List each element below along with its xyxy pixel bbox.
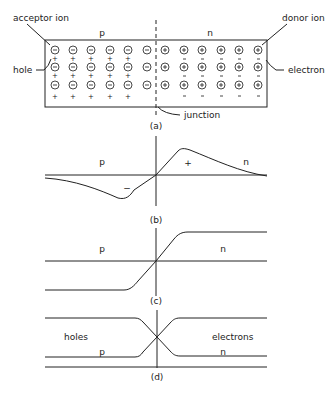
acceptor-ion [143, 81, 151, 89]
p-side-charges: + + + + + + + + + + + + + [51, 46, 151, 101]
acceptor-ion [143, 63, 151, 71]
hole: + [70, 72, 76, 80]
d-electrons-label: electrons [212, 332, 254, 342]
caption-d: (d) [151, 372, 164, 382]
hole: + [125, 93, 131, 101]
acceptor-ion [51, 81, 59, 89]
acceptor-ion [106, 63, 114, 71]
electron-leader [266, 60, 284, 70]
d-region-n: n [220, 347, 226, 357]
donor-ion [180, 46, 188, 54]
donor-ion [180, 81, 188, 89]
hole: + [70, 55, 76, 63]
donor-ion [235, 63, 243, 71]
n-side-charges [161, 46, 262, 96]
hole-leader [36, 59, 51, 70]
donor-ion [161, 81, 169, 89]
b-region-n: n [243, 157, 249, 167]
region-n-label: n [207, 28, 213, 38]
acceptor-ion [51, 63, 59, 71]
acceptor-ion [69, 63, 77, 71]
panel-c: p n (c) [45, 228, 267, 306]
acceptor-ion [87, 63, 95, 71]
hole: + [125, 55, 131, 63]
panel-d: holes electrons p n (d) [45, 310, 267, 382]
donor-ion [161, 46, 169, 54]
acceptor-ion [51, 46, 59, 54]
panel-a: p n acceptor ion donor ion hole electron… [13, 13, 325, 131]
hole: + [107, 93, 113, 101]
c-region-p: p [99, 244, 105, 254]
donor-ion-leader [262, 24, 287, 45]
d-region-p: p [99, 347, 105, 357]
hole: + [70, 93, 76, 101]
hole: + [125, 72, 131, 80]
acceptor-ion [124, 46, 132, 54]
junction-leader [158, 107, 180, 115]
donor-ion [235, 46, 243, 54]
hole: + [107, 72, 113, 80]
pn-junction-diagram: p n acceptor ion donor ion hole electron… [0, 0, 334, 395]
hole: + [107, 55, 113, 63]
donor-ion [198, 63, 206, 71]
donor-ion [198, 81, 206, 89]
caption-c: (c) [150, 296, 162, 306]
hole: + [52, 93, 58, 101]
donor-ion [217, 63, 225, 71]
donor-ion [217, 81, 225, 89]
hole-label: hole [13, 65, 33, 75]
c-region-n: n [220, 244, 226, 254]
d-holes-label: holes [64, 332, 88, 342]
acceptor-ion [87, 81, 95, 89]
acceptor-ion [143, 46, 151, 54]
b-region-p: p [99, 157, 105, 167]
acceptor-ion [106, 81, 114, 89]
acceptor-ion [124, 81, 132, 89]
donor-ion [198, 46, 206, 54]
acceptor-ion [87, 46, 95, 54]
donor-ion [254, 63, 262, 71]
hole: + [52, 72, 58, 80]
junction-label: junction [183, 110, 220, 120]
donor-ion-label: donor ion [282, 13, 325, 23]
acceptor-ion [106, 46, 114, 54]
hole: + [88, 72, 94, 80]
donor-ion [254, 81, 262, 89]
donor-ion [235, 81, 243, 89]
panel-b: p n − + (b) [45, 136, 267, 225]
region-p-label: p [99, 28, 105, 38]
b-sign-negative: − [123, 183, 131, 193]
acceptor-ion [69, 81, 77, 89]
acceptor-ion [124, 63, 132, 71]
donor-ion [180, 63, 188, 71]
acceptor-ion [69, 46, 77, 54]
donor-ion [161, 63, 169, 71]
acceptor-ion-leader [27, 24, 50, 45]
hole: + [88, 93, 94, 101]
b-sign-positive: + [184, 158, 192, 168]
electron-label: electron [288, 65, 325, 75]
donor-ion [254, 46, 262, 54]
caption-b: (b) [150, 215, 163, 225]
acceptor-ion-label: acceptor ion [13, 13, 69, 23]
caption-a: (a) [150, 121, 163, 131]
hole: + [52, 55, 58, 63]
donor-ion [217, 46, 225, 54]
hole: + [88, 55, 94, 63]
